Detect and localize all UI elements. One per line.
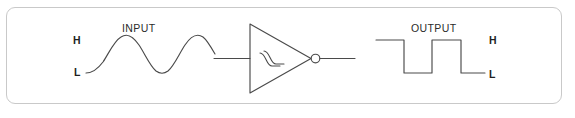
input-sine-wave bbox=[86, 35, 215, 73]
input-waveform-group bbox=[86, 35, 215, 73]
inversion-bubble-icon bbox=[311, 54, 320, 63]
output-square-wave bbox=[376, 40, 485, 73]
output-waveform-group bbox=[376, 40, 485, 73]
schmitt-trigger-symbol-group bbox=[214, 24, 355, 93]
output-title-label: OUTPUT bbox=[411, 22, 457, 34]
hysteresis-icon bbox=[260, 51, 284, 66]
gate-triangle-icon bbox=[250, 24, 311, 93]
input-high-level-label: H bbox=[73, 34, 81, 46]
input-title-label: INPUT bbox=[122, 22, 156, 34]
output-low-level-label: L bbox=[489, 68, 495, 80]
schmitt-trigger-figure: INPUT H L OUTPUT H L bbox=[0, 0, 575, 118]
output-high-level-label: H bbox=[489, 34, 497, 46]
input-low-level-label: L bbox=[74, 66, 80, 78]
diagram-canvas bbox=[0, 0, 575, 118]
